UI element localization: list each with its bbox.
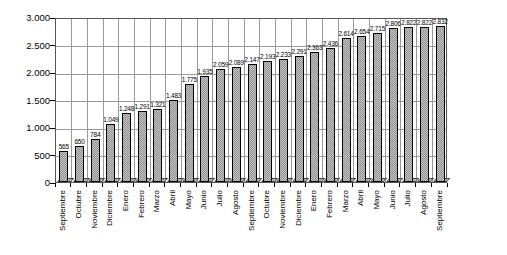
x-category-label: Octubre: [74, 190, 83, 252]
x-axis-tick: [258, 183, 259, 187]
v-gridline: [87, 19, 88, 182]
y-axis-tick: [50, 18, 55, 19]
x-category-label: Diciembre: [294, 190, 303, 252]
y-tick-label: 2.500: [0, 40, 50, 51]
bar-value-label: 2.089: [229, 59, 244, 66]
v-gridline: [369, 19, 370, 182]
x-axis-tick: [55, 183, 56, 187]
x-axis-tick: [290, 183, 291, 187]
x-axis-tick: [399, 183, 400, 187]
y-axis-tick: [50, 155, 55, 156]
x-axis-tick: [274, 183, 275, 187]
bar-value-label: 784: [90, 131, 100, 138]
bar-value-label: 2.193: [260, 53, 275, 60]
y-tick-label: 3.000: [0, 12, 50, 23]
x-axis-tick: [384, 183, 385, 187]
bar: [420, 27, 429, 182]
x-axis-tick: [305, 183, 306, 187]
x-category-label: Marzo: [152, 190, 161, 252]
bar: [185, 84, 194, 182]
x-category-label: Enero: [121, 190, 130, 252]
bar-value-label: 650: [74, 138, 84, 145]
v-gridline: [353, 19, 354, 182]
x-axis-tick: [337, 183, 338, 187]
v-gridline: [103, 19, 104, 182]
bar: [342, 38, 351, 182]
bar: [106, 124, 115, 182]
v-gridline: [259, 19, 260, 182]
y-tick-label: 1.000: [0, 122, 50, 133]
y-axis-tick: [50, 45, 55, 46]
x-category-label: Agosto: [419, 190, 428, 252]
v-gridline: [291, 19, 292, 182]
bar-value-label: 1.483: [166, 92, 181, 99]
bar-value-label: 2.233: [276, 51, 291, 58]
y-tick-label: 0: [0, 177, 50, 188]
x-axis-tick: [102, 183, 103, 187]
x-category-label: Marzo: [341, 190, 350, 252]
x-axis-tick: [243, 183, 244, 187]
v-gridline: [181, 19, 182, 182]
x-category-label: Julio: [215, 190, 224, 252]
x-category-label: Diciembre: [105, 190, 114, 252]
x-category-label: Febrero: [137, 190, 146, 252]
x-category-label: Enero: [309, 190, 318, 252]
v-gridline: [228, 19, 229, 182]
bar-value-label: 2.822: [417, 19, 432, 26]
x-axis-tick: [415, 183, 416, 187]
bar-value-label: 565: [59, 143, 69, 150]
x-axis-tick: [117, 183, 118, 187]
x-axis-tick: [149, 183, 150, 187]
x-axis-tick: [180, 183, 181, 187]
v-gridline: [134, 19, 135, 182]
v-gridline: [212, 19, 213, 182]
bar-value-label: 2.832: [433, 18, 448, 25]
y-tick-label: 500: [0, 150, 50, 161]
x-axis-tick: [70, 183, 71, 187]
bar: [91, 139, 100, 182]
bar: [122, 113, 131, 182]
bar: [232, 67, 241, 182]
bar-value-label: 2.291: [291, 48, 306, 55]
bar-value-label: 2.059: [213, 61, 228, 68]
v-gridline: [275, 19, 276, 182]
v-gridline: [118, 19, 119, 182]
bar: [138, 111, 147, 182]
x-axis-tick: [321, 183, 322, 187]
bar-value-label: 1.935: [197, 68, 212, 75]
h-gridline: [56, 46, 446, 47]
v-gridline: [71, 19, 72, 182]
bar-value-label: 2.654: [354, 28, 369, 35]
x-category-label: Abril: [168, 190, 177, 252]
x-axis-tick: [431, 183, 432, 187]
v-gridline: [385, 19, 386, 182]
bar-chart: 5656507841.0491.2481.2911.3211.4831.7751…: [0, 0, 507, 255]
x-category-label: Febrero: [325, 190, 334, 252]
bar: [436, 26, 445, 182]
bar-value-label: 1.291: [135, 103, 150, 110]
x-axis-tick: [368, 183, 369, 187]
x-axis-tick: [352, 183, 353, 187]
x-category-label: Abril: [356, 190, 365, 252]
x-category-label: Noviembre: [278, 190, 287, 252]
bar-value-label: 2.614: [338, 30, 353, 37]
bar-value-label: 1.049: [103, 116, 118, 123]
x-category-label: Septiembre: [435, 190, 444, 252]
v-gridline: [416, 19, 417, 182]
bar: [373, 33, 382, 182]
bar: [169, 100, 178, 182]
bar: [357, 36, 366, 182]
x-category-label: Noviembre: [90, 190, 99, 252]
y-axis-tick: [50, 128, 55, 129]
bar: [248, 64, 257, 182]
x-category-label: Mayo: [372, 190, 381, 252]
x-category-label: Septiembre: [58, 190, 67, 252]
x-category-label: Mayo: [184, 190, 193, 252]
plot-area: 5656507841.0491.2481.2911.3211.4831.7751…: [55, 18, 447, 183]
y-axis-tick: [50, 100, 55, 101]
x-category-label: Septiembre: [247, 190, 256, 252]
bar-value-label: 2.715: [370, 25, 385, 32]
bar: [263, 61, 272, 182]
x-axis-tick: [447, 183, 448, 187]
bar: [295, 56, 304, 182]
